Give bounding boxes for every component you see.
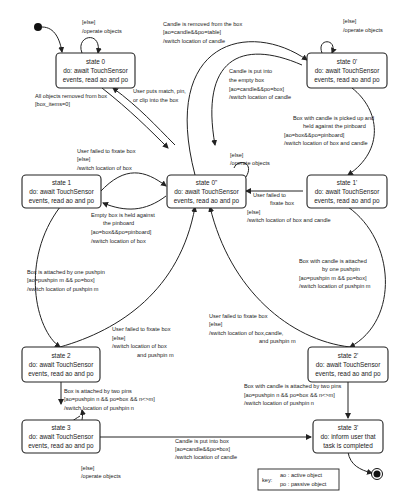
svg-text:/operate objects: /operate objects xyxy=(81,473,121,479)
key-legend: key: ao : active object po : passive obj… xyxy=(258,469,339,490)
svg-text:do: await TouchSensor: do: await TouchSensor xyxy=(315,188,380,195)
svg-text:User failed to fixate box: User failed to fixate box xyxy=(112,326,171,332)
svg-text:[else]: [else] xyxy=(112,335,126,341)
svg-text:/switch location of candle: /switch location of candle xyxy=(175,454,237,460)
svg-text:task is completed: task is completed xyxy=(323,442,373,450)
svg-text:events, read ao and po: events, read ao and po xyxy=(314,197,380,205)
svg-text:do: await TouchSensor: do: await TouchSensor xyxy=(29,188,94,195)
svg-text:events, read ao and po: events, read ao and po xyxy=(28,442,94,450)
svg-text:/switch location of pushpin m: /switch location of pushpin m xyxy=(27,286,99,292)
svg-text:[else]: [else] xyxy=(247,209,261,215)
svg-text:[else]: [else] xyxy=(209,321,223,327)
svg-text:[else]: [else] xyxy=(230,152,244,158)
svg-text:User failed to fixate box: User failed to fixate box xyxy=(209,313,268,319)
svg-text:state 0': state 0' xyxy=(337,58,357,65)
svg-text:state 2': state 2' xyxy=(338,352,358,359)
svg-text:/switch location of box: /switch location of box xyxy=(77,165,132,171)
svg-text:/switch location of pushpin n: /switch location of pushpin n xyxy=(64,405,134,411)
svg-text:events, read ao and po: events, read ao and po xyxy=(174,197,240,205)
svg-text:/switch location of box,candle: /switch location of box,candle, xyxy=(209,330,284,336)
svg-text:events, read ao and po: events, read ao and po xyxy=(315,370,381,378)
svg-text:/switch location of pushpin m: /switch location of pushpin m xyxy=(299,283,371,289)
state-2-prime: state 2' do: await TouchSensor events, r… xyxy=(308,347,388,382)
svg-text:or clip into the box: or clip into the box xyxy=(133,97,179,103)
svg-text:state 3': state 3' xyxy=(338,424,358,431)
svg-text:ao : active object: ao : active object xyxy=(280,472,322,478)
svg-text:/switch location of box and ca: /switch location of box and candle xyxy=(247,217,331,223)
label-candle-attached-two: Box with candle is attached by two pins … xyxy=(244,383,342,406)
state-0: state 0 do: await TouchSensor events, re… xyxy=(56,53,135,88)
label-candle-put-empty: Candle is put into the empty box [ao=can… xyxy=(229,68,291,100)
svg-text:events, read ao and po: events, read ao and po xyxy=(314,76,380,84)
svg-text:po : passive object: po : passive object xyxy=(280,481,327,487)
label-fail-fix-2p: User failed to fixate box [else] /switch… xyxy=(209,313,296,344)
svg-text:/operate objects: /operate objects xyxy=(230,160,270,166)
svg-text:/switch location of candle: /switch location of candle xyxy=(163,38,225,44)
svg-text:User failed to: User failed to xyxy=(253,192,286,198)
svg-text:do: await TouchSensor: do: await TouchSensor xyxy=(29,433,94,440)
svg-text:events, read ao and po: events, read ao and po xyxy=(63,76,129,84)
state-1-prime: state 1' do: await TouchSensor events, r… xyxy=(307,175,387,208)
state-2: state 2 do: await TouchSensor events, re… xyxy=(22,347,100,382)
svg-text:/switch location of pushpin n: /switch location of pushpin n xyxy=(244,400,314,406)
svg-text:key:: key: xyxy=(262,477,273,483)
svg-text:Candle is put into box: Candle is put into box xyxy=(175,438,229,444)
svg-text:Box is attached by two pins: Box is attached by two pins xyxy=(64,388,132,394)
label-box-candle-picked: Box with candle is picked up and held ag… xyxy=(284,115,374,146)
label-attached-one: Box is attached by one pushpin [ao=pushp… xyxy=(27,269,105,292)
svg-text:and pushpin m: and pushpin m xyxy=(259,338,296,344)
label-all-removed: All objects removed from box [box_items=… xyxy=(35,93,107,107)
label-s0-self: [else] /operate objects xyxy=(82,19,122,34)
svg-text:[ao=pushpin n && po=box && n<>: [ao=pushpin n && po=box && n<>m] xyxy=(64,396,155,402)
svg-text:events, read ao and po: events, read ao and po xyxy=(28,370,94,378)
svg-text:[ao=box&&po=pinboard]: [ao=box&&po=pinboard] xyxy=(91,229,152,235)
svg-text:Box with candle is attached by: Box with candle is attached by two pins xyxy=(244,383,342,389)
label-fail-fix-1p: User failed to fixate box xyxy=(253,192,294,206)
label-fail-fix-2: User failed to fixate box [else] /switch… xyxy=(112,326,174,358)
svg-text:[box_items=0]: [box_items=0] xyxy=(35,101,70,107)
svg-text:by one pushpin: by one pushpin xyxy=(322,266,360,272)
svg-text:the empty box: the empty box xyxy=(229,77,264,83)
svg-text:[ao=candle&&po=table]: [ao=candle&&po=table] xyxy=(163,29,222,35)
svg-text:events, read ao and po: events, read ao and po xyxy=(29,197,95,205)
state-3: state 3 do: await TouchSensor events, re… xyxy=(22,420,100,453)
svg-text:do: await TouchSensor: do: await TouchSensor xyxy=(316,361,381,368)
svg-text:/switch location of box: /switch location of box xyxy=(112,343,167,349)
svg-text:state 2: state 2 xyxy=(51,352,71,359)
svg-text:the pinboard: the pinboard xyxy=(103,220,134,226)
svg-text:Candle is put into: Candle is put into xyxy=(229,68,272,74)
svg-text:[ao=candle&&po=box]: [ao=candle&&po=box] xyxy=(229,86,284,92)
label-s0pp-self: [else] /operate objects xyxy=(230,152,270,166)
svg-text:/switch location of box and ca: /switch location of box and candle xyxy=(284,140,368,146)
svg-text:[ao=candle&&po=box]: [ao=candle&&po=box] xyxy=(175,446,230,452)
svg-text:Box with candle is picked up a: Box with candle is picked up and xyxy=(293,115,374,121)
svg-text:[ao=pushpin m && po=box]: [ao=pushpin m && po=box] xyxy=(27,277,95,283)
state-diagram: state 0 do: await TouchSensor events, re… xyxy=(0,0,409,504)
svg-text:do: await TouchSensor: do: await TouchSensor xyxy=(315,67,380,74)
svg-text:do: inform user that: do: inform user that xyxy=(320,433,375,440)
svg-text:held against the pinboard: held against the pinboard xyxy=(303,123,366,129)
label-empty-box-held: Empty box is held against the pinboard [… xyxy=(91,212,155,244)
svg-text:[else]: [else] xyxy=(343,18,357,24)
svg-text:All objects removed from box: All objects removed from box xyxy=(35,93,107,99)
svg-text:[else]: [else] xyxy=(81,465,95,471)
label-candle-removed: Candle is removed from the box [ao=candl… xyxy=(163,21,242,44)
label-fail-fix-1p-guard: [else] /switch location of box and candl… xyxy=(247,209,331,223)
label-candle-put-box: Candle is put into box [ao=candle&&po=bo… xyxy=(175,438,237,460)
svg-text:Candle is removed from the box: Candle is removed from the box xyxy=(163,21,242,27)
svg-text:and pushpin m: and pushpin m xyxy=(137,352,174,358)
svg-text:[else]: [else] xyxy=(82,19,96,25)
label-fail-fix-1: User failed to fixate box [else] /switch… xyxy=(77,148,136,171)
svg-text:[ao=box&&po=pinboard]: [ao=box&&po=pinboard] xyxy=(284,132,345,138)
svg-text:state 3: state 3 xyxy=(51,424,71,431)
label-s3-self: [else] /operate objects xyxy=(81,465,121,479)
svg-text:do: await TouchSensor: do: await TouchSensor xyxy=(29,361,94,368)
svg-text:[ao=pushpin n && po=box && n<>: [ao=pushpin n && po=box && n<>m] xyxy=(244,392,335,398)
svg-text:[else]: [else] xyxy=(77,156,91,162)
label-candle-attached-one: Box with candle is attached by one pushp… xyxy=(299,258,371,289)
state-3-prime: state 3' do: inform user that task is co… xyxy=(313,420,383,453)
svg-text:state 0": state 0" xyxy=(196,179,217,186)
svg-text:User puts match, pin,: User puts match, pin, xyxy=(133,88,186,94)
svg-text:/operate objects: /operate objects xyxy=(82,28,122,34)
svg-text:/operate objects: /operate objects xyxy=(343,27,383,33)
